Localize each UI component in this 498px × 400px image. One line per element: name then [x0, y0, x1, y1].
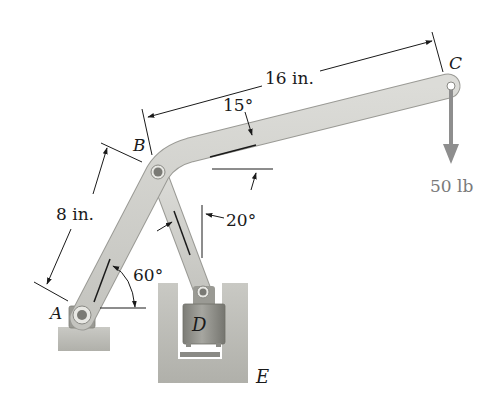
- angle-ab-label: 60°: [133, 265, 163, 285]
- dim-bc-label: 16 in.: [265, 68, 314, 88]
- angle-bc-label: 15°: [223, 95, 253, 115]
- dim-ab-label: 8 in.: [56, 204, 94, 224]
- lever-abc: [73, 82, 455, 324]
- point-a-label: A: [48, 303, 62, 323]
- mechanism-diagram: 16 in. 15° 8 in. 20° 60° 50 lb B C A D E: [0, 0, 498, 400]
- force-label: 50 lb: [430, 176, 473, 196]
- pin-c: [447, 82, 455, 90]
- point-c-label: C: [449, 53, 462, 73]
- link-bd: [158, 172, 203, 292]
- point-d-label: D: [191, 314, 207, 335]
- angle-link-label: 20°: [226, 210, 256, 230]
- force-arrow: [443, 90, 459, 164]
- ground-block-a: [58, 327, 110, 351]
- point-b-label: B: [132, 135, 146, 155]
- point-e-label: E: [255, 366, 269, 387]
